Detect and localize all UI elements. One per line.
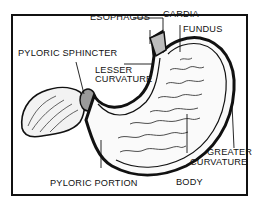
- label-body: BODY: [176, 178, 203, 188]
- label-pyloric-portion: PYLORIC PORTION: [50, 179, 138, 189]
- label-greater-curvature-line2: CURVATURE: [190, 158, 247, 168]
- label-fundus: FUNDUS: [183, 25, 222, 35]
- label-lesser-curvature-line2: CURVATURE: [95, 75, 152, 85]
- label-cardia: CARDIA: [163, 10, 199, 20]
- label-esophagus: ESOPHAGUS: [90, 13, 150, 23]
- label-pyloric-sphincter: PYLORIC SPHINCTER: [18, 49, 117, 59]
